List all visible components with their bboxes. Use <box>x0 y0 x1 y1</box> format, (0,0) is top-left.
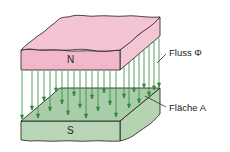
north-pole-label: N <box>67 54 74 65</box>
flux-label: Fluss Φ <box>169 47 202 58</box>
magnetic-flux-diagram <box>0 0 230 152</box>
area-label: Fläche A <box>169 102 206 113</box>
south-pole-label: S <box>67 125 74 136</box>
flux-leader-line <box>157 54 166 63</box>
